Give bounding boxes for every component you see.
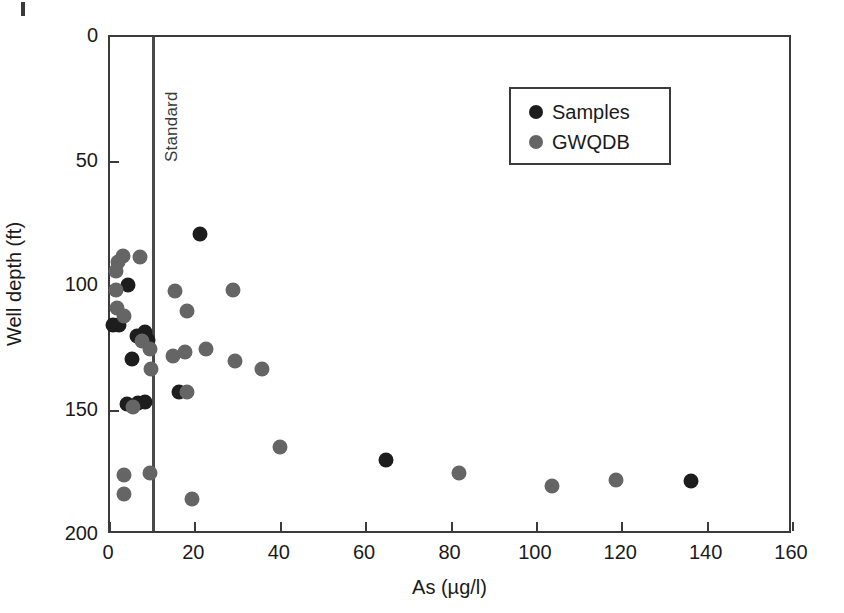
data-point — [179, 384, 194, 399]
x-tick-label-80: 80 — [438, 541, 460, 564]
standard-line-label: Standard — [162, 91, 182, 162]
data-point — [544, 479, 559, 494]
x-tick-160 — [792, 522, 794, 531]
legend-item-gwqdb: GWQDB — [529, 127, 669, 157]
x-tick-label-140: 140 — [689, 541, 722, 564]
x-tick-label-100: 100 — [518, 541, 551, 564]
x-tick-label-120: 120 — [604, 541, 637, 564]
x-tick-40 — [280, 522, 282, 531]
data-point — [167, 283, 182, 298]
data-point — [226, 282, 241, 297]
data-point — [143, 362, 158, 377]
data-point — [117, 486, 132, 501]
page-scan-artifact — [21, 2, 25, 16]
data-point — [117, 308, 132, 323]
data-point — [272, 439, 287, 454]
data-point — [143, 465, 158, 480]
x-tick-label-0: 0 — [102, 541, 113, 564]
data-point — [228, 353, 243, 368]
data-point — [126, 399, 141, 414]
x-tick-100 — [536, 522, 538, 531]
data-point — [684, 474, 699, 489]
data-point — [609, 473, 624, 488]
y-tick-label-200: 200 — [38, 522, 98, 545]
x-tick-140 — [707, 522, 709, 531]
x-tick-0 — [109, 522, 111, 531]
y-tick-label-150: 150 — [38, 397, 98, 420]
y-tick-label-50: 50 — [38, 148, 98, 171]
legend-marker-icon — [529, 135, 543, 149]
data-point — [199, 342, 214, 357]
legend: SamplesGWQDB — [509, 87, 671, 165]
legend-label: Samples — [552, 102, 630, 122]
x-tick-label-40: 40 — [268, 541, 290, 564]
legend-marker-icon — [529, 105, 543, 119]
data-point — [116, 249, 131, 264]
x-tick-20 — [194, 522, 196, 531]
legend-label: GWQDB — [552, 132, 630, 152]
plot-area: Standard — [108, 35, 791, 533]
y-tick-label-100: 100 — [38, 273, 98, 296]
data-point — [133, 250, 148, 265]
legend-item-samples: Samples — [529, 97, 669, 127]
scatter-plot-figure: Well depth (ft) 050100150200 Standard 02… — [0, 0, 844, 613]
x-tick-label-20: 20 — [182, 541, 204, 564]
y-tick-50 — [110, 161, 119, 163]
y-tick-label-0: 0 — [38, 24, 98, 47]
standard-line — [152, 37, 155, 531]
data-point — [179, 303, 194, 318]
data-point — [124, 352, 139, 367]
data-point — [116, 468, 131, 483]
data-point — [109, 282, 124, 297]
x-tick-60 — [365, 522, 367, 531]
data-point — [379, 453, 394, 468]
data-point — [254, 362, 269, 377]
x-tick-80 — [451, 522, 453, 531]
data-point — [178, 344, 193, 359]
y-tick-150 — [110, 410, 119, 412]
data-point — [142, 342, 157, 357]
x-tick-label-160: 160 — [774, 541, 807, 564]
x-axis-title: As (µg/l) — [108, 576, 791, 599]
data-point — [192, 226, 207, 241]
x-tick-label-60: 60 — [353, 541, 375, 564]
x-tick-120 — [621, 522, 623, 531]
data-point — [108, 264, 123, 279]
data-point — [185, 491, 200, 506]
data-point — [452, 465, 467, 480]
y-axis-title: Well depth (ft) — [3, 222, 26, 346]
